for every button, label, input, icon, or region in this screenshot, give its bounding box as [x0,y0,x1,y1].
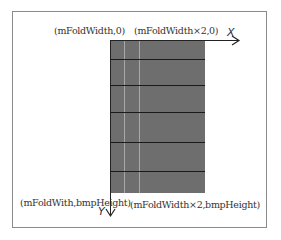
label-top-right: (mFoldWidth×2,0) [134,25,218,36]
x-axis-label: X [227,26,235,39]
label-bottom-left: (mFoldWith,bmpHeight) [20,197,131,208]
label-top-left: (mFoldWidth,0) [54,25,125,36]
y-axis-label: Y [98,205,105,218]
label-bottom-right: (mFoldWidth×2,bmpHeight) [130,199,260,210]
y-arrow-icon [106,209,115,216]
